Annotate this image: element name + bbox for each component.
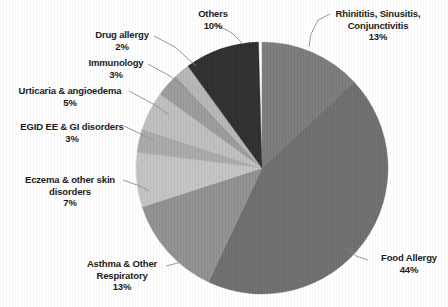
slice-label-asthma-line2: Respiratory <box>60 270 184 282</box>
slice-label-urticaria-pct: 5% <box>3 97 137 109</box>
slice-label-immunology-pct: 3% <box>70 69 162 81</box>
slice-label-asthma: Asthma & Other Respiratory 13% <box>60 258 184 293</box>
slice-label-others-name: Others <box>178 8 248 20</box>
slice-label-eczema-line2: disorders <box>12 186 128 198</box>
slice-label-egid-name: EGID EE & GI disorders <box>5 121 139 133</box>
slice-label-food-allergy-name: Food Allergy <box>372 252 446 264</box>
slice-label-urticaria: Urticaria & angioedema 5% <box>3 85 137 108</box>
slice-label-urticaria-name: Urticaria & angioedema <box>3 85 137 97</box>
slice-label-eczema-line1: Eczema & other skin <box>12 174 128 186</box>
pie-chart-figure: Others 10% Rhinititis, Sinusitis, Conjun… <box>0 0 448 307</box>
slice-label-egid: EGID EE & GI disorders 3% <box>5 121 139 144</box>
pie-slices <box>136 42 388 294</box>
slice-label-immunology: Immunology 3% <box>70 57 162 80</box>
slice-label-asthma-pct: 13% <box>60 281 184 293</box>
slice-label-eczema-pct: 7% <box>12 197 128 209</box>
slice-label-egid-pct: 3% <box>5 133 139 145</box>
slice-label-rhinitis-pct: 13% <box>312 31 444 43</box>
slice-label-others: Others 10% <box>178 8 248 31</box>
slice-label-immunology-name: Immunology <box>70 57 162 69</box>
slice-label-asthma-line1: Asthma & Other <box>60 258 184 270</box>
slice-label-drug-allergy-name: Drug allergy <box>79 29 165 41</box>
slice-label-food-allergy: Food Allergy 44% <box>372 252 446 275</box>
slice-label-rhinitis: Rhinititis, Sinusitis, Conjunctivitis 13… <box>312 8 444 43</box>
slice-label-drug-allergy-pct: 2% <box>79 41 165 53</box>
slice-label-food-allergy-pct: 44% <box>372 264 446 276</box>
slice-label-others-pct: 10% <box>178 20 248 32</box>
slice-label-rhinitis-line1: Rhinititis, Sinusitis, <box>312 8 444 20</box>
slice-label-rhinitis-line2: Conjunctivitis <box>312 20 444 32</box>
slice-label-eczema: Eczema & other skin disorders 7% <box>12 174 128 209</box>
slice-label-drug-allergy: Drug allergy 2% <box>79 29 165 52</box>
